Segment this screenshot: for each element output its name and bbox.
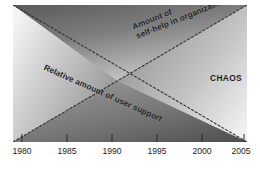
x-tick-label-1980: 1980: [12, 146, 31, 156]
x-tick-label-1995: 1995: [147, 146, 166, 156]
x-tick-label-2005: 2005: [231, 146, 250, 156]
annotation-chaos: CHAOS: [210, 74, 242, 84]
x-tick-label-2000: 2000: [192, 146, 211, 156]
x-tick-label-1985: 1985: [57, 146, 76, 156]
chart-plot-area: Amount of self-help in organizations Rel…: [13, 5, 247, 142]
x-tick-label-1990: 1990: [102, 146, 121, 156]
x-axis-tick-labels: 1980 1985 1990 1995 2000 2005: [0, 146, 260, 162]
figure-container: Amount of self-help in organizations Rel…: [0, 0, 260, 170]
